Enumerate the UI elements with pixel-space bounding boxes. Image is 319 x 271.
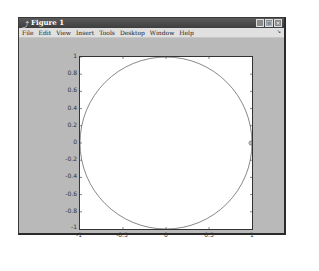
menu-help[interactable]: Help <box>179 28 194 37</box>
close-button[interactable]: × <box>274 19 282 27</box>
x-tick-label: -0.5 <box>112 231 132 238</box>
y-tick-label: 0 <box>53 138 77 145</box>
y-tick-label: 0.8 <box>53 69 77 76</box>
unit-circle-line <box>80 57 252 229</box>
menu-file[interactable]: File <box>22 28 34 37</box>
minimize-button[interactable]: _ <box>256 19 264 27</box>
menu-desktop[interactable]: Desktop <box>120 28 145 37</box>
menu-edit[interactable]: Edit <box>39 28 52 37</box>
menu-bar: File Edit View Insert Tools Desktop Wind… <box>19 28 284 38</box>
y-tick-label: -1 <box>53 223 77 230</box>
menu-insert[interactable]: Insert <box>76 28 94 37</box>
dock-arrow-icon[interactable]: ↘ <box>277 28 281 34</box>
y-tick-label: -0.2 <box>53 155 77 162</box>
x-tick-label: 1 <box>242 231 262 238</box>
y-tick-label: 0.4 <box>53 104 77 111</box>
x-tick-label: 0.5 <box>199 231 219 238</box>
y-tick-label: 1 <box>53 52 77 59</box>
x-tick-label: -1 <box>69 231 89 238</box>
y-tick-label: -0.6 <box>53 190 77 197</box>
menu-view[interactable]: View <box>56 28 71 37</box>
y-tick-label: -0.8 <box>53 207 77 214</box>
x-tick-label: 0 <box>156 231 176 238</box>
y-tick-label: 0.2 <box>53 121 77 128</box>
menu-window[interactable]: Window <box>150 28 174 37</box>
plot-canvas <box>80 57 252 229</box>
window-title: Figure 1 <box>31 18 64 28</box>
menu-tools[interactable]: Tools <box>99 28 115 37</box>
figure-window: ⤴ Figure 1 _ □ × File Edit View Insert T… <box>18 17 286 235</box>
axes[interactable] <box>79 56 253 230</box>
y-tick-label: -0.4 <box>53 172 77 179</box>
y-tick-label: 0.6 <box>53 86 77 93</box>
maximize-button[interactable]: □ <box>265 19 273 27</box>
title-bar[interactable]: ⤴ Figure 1 _ □ × <box>19 18 284 28</box>
